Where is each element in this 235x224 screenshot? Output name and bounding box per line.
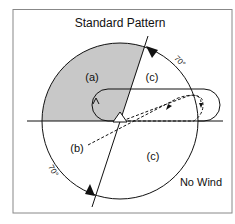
diagram-title: Standard Pattern: [75, 16, 166, 30]
sector-c-lower-label: (c): [147, 150, 160, 162]
sector-c-upper-label: (c): [146, 71, 159, 83]
sector-b-label: (b): [70, 142, 83, 154]
wind-label: No Wind: [180, 176, 222, 188]
holding-pattern-diagram: Standard Pattern (a) (c) (b) (c) No Wind…: [0, 0, 235, 224]
sector-a-label: (a): [85, 71, 98, 83]
